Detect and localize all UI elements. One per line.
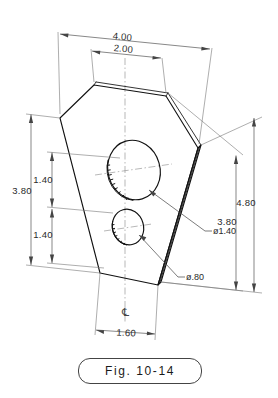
ext-line-right-48-top [201, 117, 262, 145]
arrow-14-lower-bottom [50, 255, 54, 264]
dimension-top-inner: 2.00 [91, 42, 166, 93]
dim-line-4 [60, 34, 210, 49]
arrow-48-top [252, 118, 256, 127]
small-hole-hatching [111, 223, 125, 247]
arrow-2-left [92, 51, 100, 55]
arrow-38-left-top [29, 115, 33, 124]
ext-line-14-upper-top [47, 152, 120, 158]
arrow-14-upper-bottom [50, 199, 54, 208]
centerline-symbol: ℄ [121, 306, 129, 318]
arrow-14-upper-top [50, 153, 54, 162]
plate-thickness-vertex-upper-right [166, 93, 168, 96]
arrow-38-right-top [234, 156, 238, 165]
dim-text-left-upper: 1.40 [33, 174, 52, 185]
callout-small-hole: ø.80 [186, 272, 204, 282]
ext-line-top-left-2 [91, 49, 94, 82]
large-hole-ellipse [101, 134, 168, 206]
plate-top-face [60, 85, 198, 285]
ext-line-right-38-top [168, 93, 243, 155]
plate-thickness-upper-right-edge [168, 93, 201, 145]
dimension-left-overall: 3.80 [12, 114, 100, 273]
ext-line-right-48-bottom [161, 282, 262, 293]
ext-line-top-right-2 [162, 58, 166, 93]
plate-thickness-vertex-top [94, 82, 96, 85]
leader-large-hole: ø1.40 [149, 190, 236, 236]
plate-side-face-inner-line [160, 147, 200, 284]
arrow-4-left [60, 34, 69, 38]
ext-line-14-mid [47, 207, 113, 213]
ext-line-bottom-right [155, 285, 158, 340]
technical-drawing-canvas: 4.00 2.00 3.80 1.40 [0, 0, 278, 398]
large-hole [101, 134, 168, 206]
drawing-sheet: 4.00 2.00 3.80 1.40 [0, 0, 278, 398]
figure-label-badge: Fig. 10-14 [78, 358, 202, 384]
callout-large-hole: ø1.40 [213, 226, 236, 236]
figure-label-text: Fig. 10-14 [105, 364, 175, 378]
arrow-38-left-bottom [29, 257, 33, 266]
arrow-14-lower-top [50, 209, 54, 218]
dim-text-left-lower: 1.40 [33, 229, 52, 240]
dimension-top-overall: 4.00 [58, 30, 212, 144]
dim-text-top-overall: 4.00 [112, 30, 132, 43]
ext-line-14-lower-bottom [47, 263, 104, 268]
plate-outline [60, 82, 201, 285]
dim-text-right-overall: 4.80 [236, 197, 255, 208]
arrow-38-right-bottom [234, 282, 238, 291]
dimension-right-overall: 4.80 [161, 117, 262, 293]
ext-line-bottom-left [95, 273, 100, 335]
arrow-16-left [96, 330, 104, 334]
dim-text-top-inner: 2.00 [113, 42, 133, 55]
ext-line-top-left-4 [58, 32, 60, 114]
small-hole-horizontal-centerline [104, 224, 152, 231]
arrow-16-right [147, 332, 155, 336]
ext-line-top-right-4 [199, 48, 212, 144]
dim-text-left-overall: 3.80 [12, 185, 31, 196]
dim-text-bottom: 1.60 [116, 326, 136, 338]
ext-line-left-bottom-38 [26, 265, 100, 273]
small-hole [108, 205, 148, 248]
arrow-48-bottom [252, 284, 256, 293]
dimension-left-lower: 1.40 [33, 209, 104, 268]
arrow-2-right [152, 56, 161, 60]
small-hole-ellipse [108, 205, 148, 248]
